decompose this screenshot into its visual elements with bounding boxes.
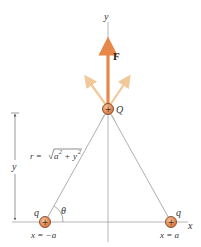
position-label-left: x = −a	[30, 230, 57, 240]
x-axis-label: x	[187, 220, 193, 231]
plus-sign-icon: +	[105, 105, 112, 114]
r-expr-plus: +	[62, 151, 73, 161]
diagram-canvas: y x F + Q + q x = −a + q	[0, 0, 201, 247]
y-axis: y	[103, 11, 109, 242]
force-label: F	[113, 50, 120, 62]
charge-right: + q x = a	[159, 207, 181, 240]
charge-label-q-left: q	[34, 207, 39, 218]
charge-label-q-right: q	[176, 207, 181, 218]
r-expr-y: y	[72, 151, 77, 161]
plus-sign-icon: +	[168, 218, 175, 227]
angle-theta: θ	[54, 205, 66, 222]
theta-label: θ	[61, 205, 66, 216]
right-component-arrow	[110, 80, 127, 105]
height-label: y	[11, 161, 17, 172]
distance-formula: r = a 2 + y 2	[30, 149, 82, 161]
r-prefix: r =	[30, 151, 42, 161]
charge-left: + q x = −a	[30, 207, 57, 240]
charge-label-q-big: Q	[116, 104, 124, 115]
position-label-right: x = a	[159, 230, 180, 240]
coulomb-force-diagram: y x F + Q + q x = −a + q	[0, 0, 201, 247]
r-expr-y-exponent: 2	[78, 149, 81, 155]
left-component-arrow	[88, 80, 106, 105]
y-axis-label: y	[103, 11, 109, 22]
plus-sign-icon: +	[42, 218, 49, 227]
height-dimension: y	[11, 113, 19, 219]
charge-q-center: + Q	[103, 104, 125, 116]
net-force-arrow: F	[108, 46, 120, 104]
